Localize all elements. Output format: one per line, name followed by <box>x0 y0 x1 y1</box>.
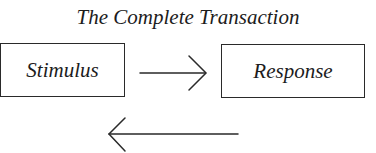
right-arrow-icon <box>140 56 206 90</box>
left-arrow-icon <box>109 118 238 151</box>
arrows-layer <box>0 0 376 153</box>
